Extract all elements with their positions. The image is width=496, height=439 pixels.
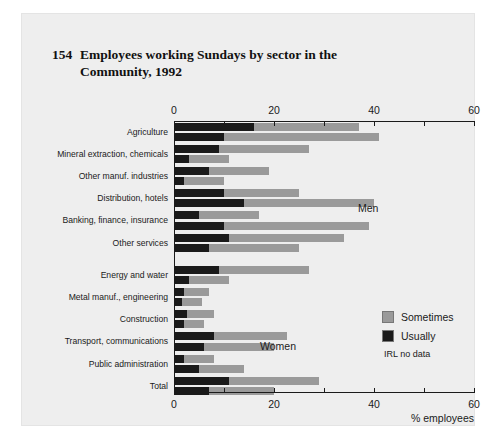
chart-title-number: 154 bbox=[52, 46, 80, 63]
bar-segment-usually bbox=[174, 355, 184, 363]
figure-panel: 154Employees working Sundays by sector i… bbox=[22, 14, 474, 425]
category-label: Public administration bbox=[18, 359, 168, 369]
bar-segment-sometimes bbox=[184, 355, 214, 363]
legend-item-usually: Usually bbox=[382, 330, 454, 342]
bar-segment-usually bbox=[174, 234, 229, 242]
axis-tick bbox=[174, 121, 175, 126]
bar-segment-usually bbox=[174, 123, 254, 131]
axis-tick-label: 60 bbox=[468, 104, 480, 116]
axis-tick-label: 60 bbox=[468, 398, 480, 410]
chart-title-text: Employees working Sundays by sector in t… bbox=[80, 46, 370, 80]
bar-segment-usually bbox=[174, 276, 189, 284]
axis-tick bbox=[424, 121, 425, 126]
bar-segment-sometimes bbox=[199, 365, 244, 373]
bar-segment-sometimes bbox=[184, 320, 204, 328]
bar-segment-sometimes bbox=[224, 222, 369, 230]
axis-tick bbox=[224, 388, 225, 393]
category-label: Energy and water bbox=[18, 270, 168, 280]
category-label: Distribution, hotels bbox=[18, 193, 168, 203]
bar-segment-sometimes bbox=[229, 234, 344, 242]
bar-segment-sometimes bbox=[254, 123, 359, 131]
category-label: Other manuf. industries bbox=[18, 171, 168, 181]
bar-segment-usually bbox=[174, 155, 189, 163]
legend-note-no-data: IRL no data bbox=[384, 349, 454, 359]
category-label: Other services bbox=[18, 238, 168, 248]
bar-segment-usually bbox=[174, 288, 184, 296]
bar-segment-usually bbox=[174, 222, 224, 230]
axis-tick-label: 20 bbox=[268, 398, 280, 410]
bar-segment-sometimes bbox=[219, 145, 309, 153]
axis-tick-label: 40 bbox=[368, 104, 380, 116]
x-axis-title: % employees bbox=[411, 412, 474, 424]
bar-segment-sometimes bbox=[184, 177, 224, 185]
axis-tick bbox=[274, 388, 275, 393]
bar-segment-usually bbox=[174, 133, 224, 141]
group-annotation-women: Women bbox=[260, 340, 296, 352]
category-axis-labels: AgricultureMineral extraction, chemicals… bbox=[22, 121, 168, 393]
bar-segment-usually bbox=[174, 320, 184, 328]
category-label: Banking, finance, insurance bbox=[18, 215, 168, 225]
bar-segment-usually bbox=[174, 177, 184, 185]
group-annotation-men: Men bbox=[358, 202, 378, 214]
legend-label-sometimes: Sometimes bbox=[401, 311, 454, 323]
bar-segment-usually bbox=[174, 199, 244, 207]
bar-segment-usually bbox=[174, 332, 214, 340]
axis-tick bbox=[424, 388, 425, 393]
category-label: Total bbox=[18, 381, 168, 391]
chart-title: 154Employees working Sundays by sector i… bbox=[52, 46, 392, 80]
axis-tick-label: 40 bbox=[368, 398, 380, 410]
bar-segment-sometimes bbox=[182, 298, 202, 306]
axis-tick-label: 0 bbox=[171, 398, 177, 410]
bar-segment-sometimes bbox=[189, 276, 229, 284]
bar-segment-usually bbox=[174, 145, 219, 153]
bar-segment-sometimes bbox=[209, 167, 269, 175]
category-label: Mineral extraction, chemicals bbox=[18, 149, 168, 159]
bar-segment-usually bbox=[174, 343, 204, 351]
axis-tick bbox=[274, 121, 275, 126]
axis-tick-label: 0 bbox=[171, 104, 177, 116]
category-label: Construction bbox=[18, 314, 168, 324]
axis-tick bbox=[224, 121, 225, 126]
legend: Sometimes Usually IRL no data bbox=[382, 311, 454, 359]
bar-segment-sometimes bbox=[244, 199, 374, 207]
bar-segment-sometimes bbox=[219, 266, 309, 274]
axis-tick bbox=[374, 388, 375, 393]
legend-swatch-usually bbox=[382, 330, 394, 342]
axis-tick bbox=[324, 121, 325, 126]
bar-segment-sometimes bbox=[189, 155, 229, 163]
bar-segment-sometimes bbox=[184, 288, 209, 296]
bar-segment-sometimes bbox=[209, 387, 274, 395]
axis-tick bbox=[474, 388, 475, 393]
legend-item-sometimes: Sometimes bbox=[382, 311, 454, 323]
axis-tick bbox=[374, 121, 375, 126]
bar-segment-usually bbox=[174, 211, 199, 219]
bar-segment-usually bbox=[174, 189, 224, 197]
bar-segment-usually bbox=[174, 298, 182, 306]
category-label: Metal manuf., engineering bbox=[18, 292, 168, 302]
bar-segment-usually bbox=[174, 310, 187, 318]
bar-segment-sometimes bbox=[199, 211, 259, 219]
bar-segment-usually bbox=[174, 266, 219, 274]
bar-segment-usually bbox=[174, 365, 199, 373]
category-label: Agriculture bbox=[18, 127, 168, 137]
bar-segment-usually bbox=[174, 387, 209, 395]
bar-segment-sometimes bbox=[187, 310, 215, 318]
axis-tick-label: 20 bbox=[268, 104, 280, 116]
legend-label-usually: Usually bbox=[401, 330, 435, 342]
bar-segment-usually bbox=[174, 167, 209, 175]
legend-swatch-sometimes bbox=[382, 311, 394, 323]
bar-segment-usually bbox=[174, 377, 229, 385]
axis-tick bbox=[474, 121, 475, 126]
bar-segment-sometimes bbox=[229, 377, 319, 385]
axis-tick bbox=[174, 388, 175, 393]
bar-segment-sometimes bbox=[224, 189, 299, 197]
axis-tick bbox=[324, 388, 325, 393]
category-label: Transport, communications bbox=[18, 336, 168, 346]
bar-segment-sometimes bbox=[224, 133, 379, 141]
bar-segment-sometimes bbox=[209, 244, 299, 252]
bar-segment-usually bbox=[174, 244, 209, 252]
